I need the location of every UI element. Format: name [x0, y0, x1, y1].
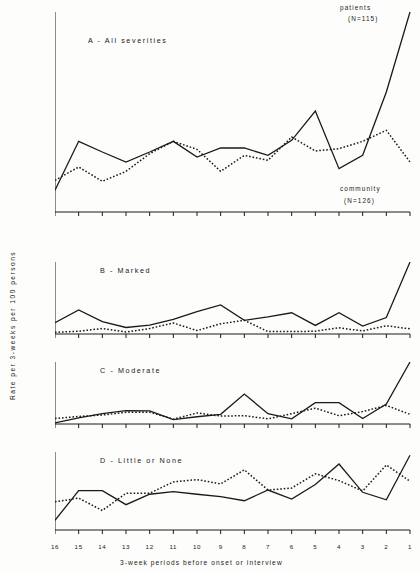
panel-d-plot: 03691215182124: [55, 452, 420, 540]
x-tick-label: 6: [285, 543, 299, 550]
panel-a-title: A - All severities: [88, 36, 168, 45]
x-tick-label: 11: [166, 543, 180, 550]
x-tick-label: 7: [261, 543, 275, 550]
x-axis-label: 3-week periods before onset or interview: [120, 559, 283, 566]
panel-c-title: C - Moderate: [100, 366, 161, 375]
x-tick-label: 12: [143, 543, 157, 550]
x-tick-label: 15: [72, 543, 86, 550]
panel-d-title: D - Little or None: [100, 456, 183, 465]
series-line-patients: [55, 455, 410, 520]
y-axis-label: Rate per 3-weeks per 100 persons: [9, 251, 16, 400]
x-tick-label: 13: [119, 543, 133, 550]
series-line-community: [55, 465, 410, 511]
patients-series-label: patients: [340, 4, 371, 11]
x-tick-label: 1: [403, 543, 417, 550]
series-line-community: [55, 130, 410, 181]
x-tick-label: 5: [308, 543, 322, 550]
x-tick-label: 16: [48, 543, 62, 550]
patients-series-n: (N=115): [348, 15, 379, 22]
figure-root: Rate per 3-weeks per 100 persons 0369121…: [0, 0, 420, 571]
panel-d: 03691215182124: [55, 452, 420, 540]
x-tick-label: 4: [332, 543, 346, 550]
x-tick-label: 3: [356, 543, 370, 550]
x-tick-label: 14: [95, 543, 109, 550]
x-tick-label: 9: [214, 543, 228, 550]
community-series-n: (N=126): [344, 197, 375, 204]
x-tick-label: 2: [379, 543, 393, 550]
community-series-label: community: [340, 185, 381, 192]
panel-b-title: B - Marked: [100, 266, 151, 275]
x-tick-label: 10: [190, 543, 204, 550]
x-tick-label: 8: [237, 543, 251, 550]
